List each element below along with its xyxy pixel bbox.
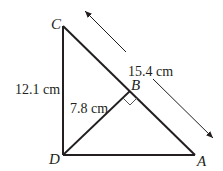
measure-cd-label: 12.1 cm <box>15 82 60 97</box>
triangle-diagram: C D A B 12.1 cm 7.8 cm 15.4 cm <box>0 0 223 171</box>
measure-db-label: 7.8 cm <box>70 101 108 116</box>
vertex-label-a: A <box>196 153 207 169</box>
right-angle-mark <box>123 98 137 105</box>
dimension-arrow-lower <box>153 79 213 138</box>
vertex-label-d: D <box>48 151 60 167</box>
vertex-label-b: B <box>131 77 140 93</box>
measure-ca-label: 15.4 cm <box>128 64 173 79</box>
dimension-arrow-upper <box>85 11 126 52</box>
vertex-label-c: C <box>51 16 62 32</box>
